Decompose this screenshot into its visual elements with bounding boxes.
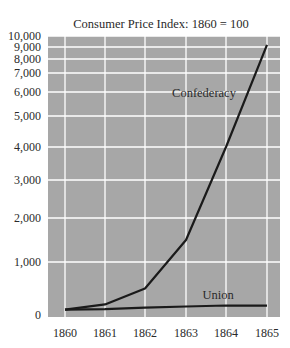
y-tick-label: 2,000 <box>14 211 41 225</box>
y-tick-label: 8,000 <box>14 52 41 66</box>
y-tick-label: 4,000 <box>14 140 41 154</box>
y-tick-label: 6,000 <box>14 85 41 99</box>
y-tick-label: 0 <box>35 308 41 322</box>
x-tick-label: 1865 <box>255 326 279 340</box>
chart-title: Consumer Price Index: 1860 = 100 <box>73 17 248 31</box>
y-tick-label: 3,000 <box>14 173 41 187</box>
x-tick-label: 1860 <box>53 326 77 340</box>
x-tick-label: 1861 <box>93 326 117 340</box>
y-tick-label: 5,000 <box>14 109 41 123</box>
y-tick-label: 7,000 <box>14 66 41 80</box>
x-tick-label: 1862 <box>133 326 157 340</box>
series-label-union: Union <box>202 288 234 302</box>
plot-background <box>48 36 280 317</box>
series-label-confederacy: Confederacy <box>172 86 237 100</box>
cpi-chart: Consumer Price Index: 1860 = 100 Confede… <box>0 0 290 348</box>
x-tick-label: 1863 <box>174 326 198 340</box>
x-tick-label: 1864 <box>214 326 238 340</box>
x-axis: 186018611862186318641865 <box>53 326 279 340</box>
chart-canvas: Consumer Price Index: 1860 = 100 Confede… <box>0 0 290 348</box>
y-tick-label: 1,000 <box>14 255 41 269</box>
y-tick-label: 10,000 <box>8 29 41 43</box>
y-axis: 01,0002,0003,0004,0005,0006,0007,0008,00… <box>8 29 41 322</box>
